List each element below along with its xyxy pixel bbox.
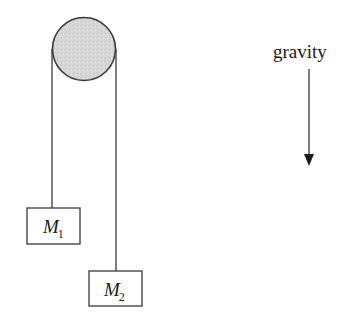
pulley-icon bbox=[53, 18, 116, 81]
gravity-label: gravity bbox=[273, 41, 327, 62]
mass-m2-subscript: 2 bbox=[119, 290, 125, 304]
mass-m1: M1 bbox=[27, 208, 80, 244]
mass-m2: M2 bbox=[89, 271, 142, 306]
mass-m1-subscript: 1 bbox=[58, 227, 64, 241]
down-arrow-icon bbox=[304, 154, 314, 166]
atwood-machine-diagram: M1 M2 gravity bbox=[0, 0, 353, 332]
